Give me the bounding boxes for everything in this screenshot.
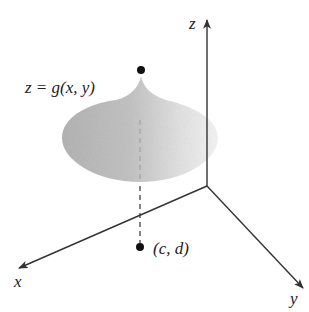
y-axis: [207, 186, 303, 288]
x-axis-label: x: [14, 273, 22, 290]
point-label: (c, d): [153, 240, 189, 257]
y-axis-label: y: [290, 290, 298, 307]
max-point: [137, 66, 145, 74]
domain-point: [136, 243, 144, 251]
surface-diagram: [0, 0, 309, 312]
z-axis-label: z: [189, 15, 196, 32]
surface-equation-label: z = g(x, y): [25, 79, 95, 96]
